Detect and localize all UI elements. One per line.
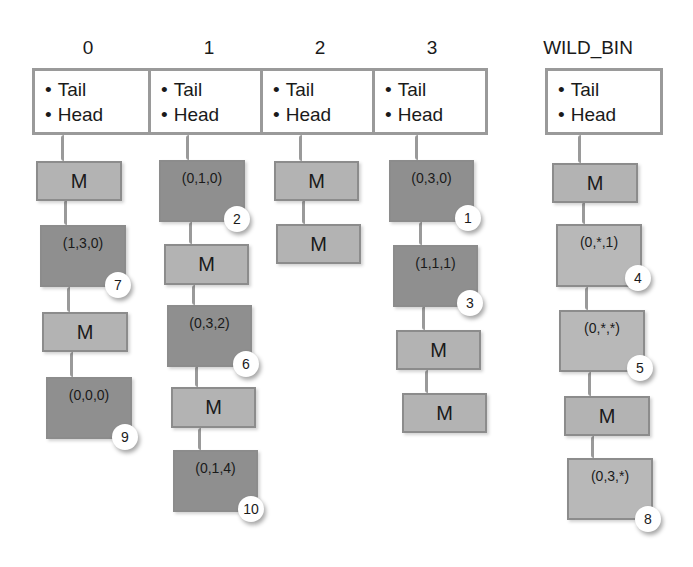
bin-header-0: Tail Head	[32, 68, 151, 135]
link-connector	[67, 287, 76, 312]
order-badge: 3	[457, 290, 483, 316]
marker-node: M	[564, 396, 650, 436]
marker-node: M	[36, 161, 122, 201]
link-connector	[302, 200, 311, 224]
link-connector	[578, 135, 587, 163]
tail-field: Tail	[273, 77, 372, 102]
head-field: Head	[161, 102, 260, 127]
bin-header-3: Tail Head	[372, 68, 488, 135]
rule-tuple: (1,3,0)	[63, 235, 103, 251]
marker-node: M	[164, 244, 249, 285]
rule-tuple: (0,*,1)	[580, 234, 618, 250]
order-badge: 2	[224, 206, 250, 232]
link-connector	[70, 352, 79, 377]
marker-node: M	[274, 161, 359, 201]
marker-node: M	[276, 224, 361, 264]
order-badge: 7	[105, 272, 131, 298]
marker-node: M	[552, 163, 638, 203]
bin-label-2: 2	[260, 37, 380, 59]
head-field: Head	[273, 102, 372, 127]
rule-tuple: (0,3,0)	[411, 170, 451, 186]
head-field: Head	[385, 102, 485, 127]
link-connector	[61, 135, 70, 161]
link-connector	[588, 372, 597, 396]
order-badge: 1	[455, 205, 481, 231]
link-connector	[585, 287, 594, 310]
link-connector	[582, 202, 591, 224]
order-badge: 9	[112, 424, 138, 450]
link-connector	[64, 200, 73, 225]
rule-tuple: (0,3,*)	[591, 468, 629, 484]
marker-node: M	[42, 312, 128, 352]
rule-tuple: (1,1,1)	[415, 255, 455, 271]
bin-label-3: 3	[372, 37, 492, 59]
rule-tuple: (0,1,0)	[182, 170, 222, 186]
tail-field: Tail	[45, 77, 148, 102]
link-connector	[189, 222, 198, 244]
bin-header-wild: Tail Head	[545, 68, 663, 135]
marker-node: M	[402, 393, 487, 433]
link-connector	[186, 135, 195, 160]
head-field: Head	[558, 102, 660, 127]
tail-field: Tail	[161, 77, 260, 102]
tail-field: Tail	[385, 77, 485, 102]
bin-header-2: Tail Head	[260, 68, 375, 135]
link-connector	[299, 135, 308, 161]
link-connector	[591, 436, 600, 458]
order-badge: 8	[635, 506, 661, 532]
rule-tuple: (0,*,*)	[584, 320, 620, 336]
marker-node: M	[396, 330, 481, 370]
order-badge: 5	[627, 355, 653, 381]
rule-tuple: (0,1,4)	[195, 460, 235, 476]
bin-label-0: 0	[28, 37, 148, 59]
link-connector	[415, 135, 424, 160]
link-connector	[425, 370, 434, 393]
bin-header-1: Tail Head	[148, 68, 263, 135]
link-connector	[419, 222, 428, 245]
link-connector	[198, 428, 207, 450]
order-badge: 6	[233, 351, 259, 377]
rule-tuple: (0,3,2)	[189, 315, 229, 331]
marker-node: M	[171, 387, 256, 428]
order-badge: 4	[625, 265, 651, 291]
rule-tuple: (0,0,0)	[69, 387, 109, 403]
bin-label-1: 1	[149, 37, 269, 59]
bin-label-wild: WILD_BIN	[528, 37, 648, 59]
link-connector	[192, 285, 201, 305]
link-connector	[422, 306, 431, 330]
order-badge: 10	[238, 496, 264, 522]
link-connector	[195, 366, 204, 387]
tail-field: Tail	[558, 77, 660, 102]
head-field: Head	[45, 102, 148, 127]
